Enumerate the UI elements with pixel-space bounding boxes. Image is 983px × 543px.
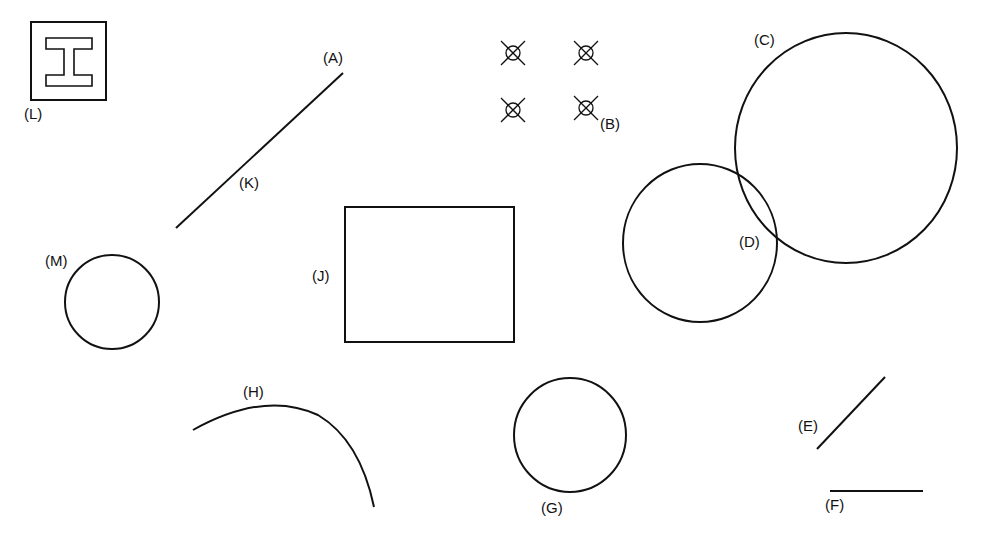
node-markers[interactable] (501, 41, 598, 122)
circle-m[interactable] (65, 255, 159, 349)
label-l: (L) (24, 106, 42, 121)
node-marker-icon (574, 96, 598, 120)
rectangle-j[interactable] (345, 207, 514, 342)
circle-c[interactable] (735, 33, 957, 263)
line-segment-ak[interactable] (176, 73, 343, 228)
node-marker-icon (501, 41, 525, 65)
node-marker-icon (501, 98, 525, 122)
label-h: (H) (243, 384, 264, 399)
label-g: (G) (541, 500, 563, 515)
circle-g[interactable] (514, 378, 626, 492)
label-e: (E) (798, 418, 818, 433)
label-f: (F) (825, 497, 844, 512)
label-k: (K) (239, 175, 259, 190)
label-c: (C) (754, 32, 775, 47)
line-e[interactable] (817, 377, 885, 449)
label-m: (M) (45, 253, 68, 268)
label-a: (A) (323, 50, 343, 65)
label-b: (B) (600, 116, 620, 131)
ibeam-block-icon[interactable] (31, 22, 106, 100)
arc-h[interactable] (193, 405, 374, 507)
node-marker-icon (574, 41, 598, 65)
label-d: (D) (739, 234, 760, 249)
drawing-canvas (0, 0, 983, 543)
label-j: (J) (312, 268, 330, 283)
